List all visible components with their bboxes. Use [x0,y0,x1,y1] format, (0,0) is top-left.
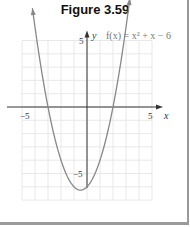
y-axis-label: y [91,30,97,41]
curve-arrowhead [31,8,36,15]
x-axis-label: x [163,110,169,121]
curve-arrowhead [127,0,132,5]
x-tick-label: 5 [148,111,153,121]
y-tick-label: 5 [79,36,84,46]
plot-area: −555−5 x y f(x) = x² + x − 6 [0,0,190,227]
y-axis-arrow [85,31,90,38]
x-tick-label: −5 [20,111,30,121]
x-axis-arrow [156,105,163,110]
function-label: f(x) = x² + x − 6 [106,30,171,42]
y-tick-label: −5 [73,169,83,179]
